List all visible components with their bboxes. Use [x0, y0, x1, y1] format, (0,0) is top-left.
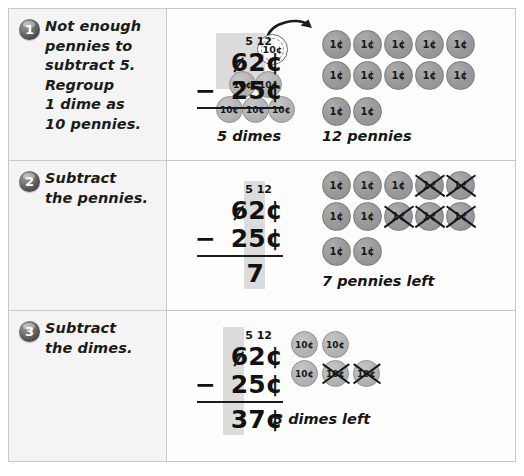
penny-coin-crossed: 1¢ [415, 202, 444, 231]
step-3-instruction-cell: 3 Subtract the dimes. [9, 311, 167, 461]
dime-coin: 10¢ [291, 331, 318, 358]
subtrahend-cent-sign: ¢ [266, 224, 283, 253]
coin-face-label: 10¢ [295, 340, 314, 350]
cross-out-icon [323, 361, 348, 386]
subtrahend-cent-sign: ¢ [266, 370, 283, 399]
penny-coin: 1¢ [353, 30, 382, 59]
coin-face-label: 1¢ [361, 246, 375, 257]
subtrahend-row: −25¢ [197, 225, 283, 253]
cross-out-icon [447, 203, 474, 230]
step-2-work-cell: 5 12 62¢ −25¢ 7 [167, 161, 515, 310]
penny-coin: 1¢ [322, 30, 351, 59]
minus-operator: − [195, 225, 216, 253]
minuend-tens-digit: 6 [231, 197, 248, 225]
penny-coin: 1¢ [322, 171, 351, 200]
coin-face-label: 10¢ [295, 369, 314, 379]
cross-out-icon [416, 203, 443, 230]
coin-face-label: 1¢ [330, 106, 344, 117]
subtrahend-row: −25¢ [197, 371, 283, 399]
coin-face-label: 1¢ [361, 70, 375, 81]
difference-row [197, 112, 283, 140]
minuend-tens-digit: 6 [231, 49, 248, 77]
penny-coin: 1¢ [415, 30, 444, 59]
coin-face-label: 1¢ [330, 180, 344, 191]
step-instruction-text: Subtract the dimes. [45, 319, 162, 358]
minus-operator: − [195, 77, 216, 105]
vertical-subtraction-2: 5 12 62¢ −25¢ 7 [197, 183, 283, 288]
cross-out-icon [385, 203, 412, 230]
regroup-ones-digit: 12 [257, 183, 272, 196]
penny-coin: 1¢ [322, 61, 351, 90]
subtrahend-ones-digit: 5 [248, 76, 265, 105]
coin-face-label: 1¢ [423, 39, 437, 50]
penny-coin: 1¢ [322, 97, 351, 126]
coin-face-label: 1¢ [330, 246, 344, 257]
dime-coin: 10¢ [322, 331, 349, 358]
coin-face-label: 1¢ [392, 70, 406, 81]
difference-row: 7 [197, 260, 283, 288]
table-row: 3 Subtract the dimes. 5 12 62¢ [9, 311, 515, 461]
step-number-badge: 3 [19, 321, 40, 342]
penny-coin: 1¢ [353, 97, 382, 126]
step-number-badge: 1 [19, 19, 40, 40]
coin-face-label: 1¢ [330, 70, 344, 81]
dime-coin-crossed: 10¢ [353, 360, 380, 387]
subtrahend-row: −25¢ [197, 77, 283, 105]
steps-table: 1 Not enough pennies to subtract 5. Regr… [8, 8, 516, 462]
regroup-tens-digit: 5 [245, 183, 253, 196]
regroup-ones-digit: 12 [257, 329, 272, 342]
subtrahend-tens-digit: 2 [231, 76, 248, 105]
dimes-left-label: 3 dimes left [273, 411, 370, 427]
minuend-cent-sign: ¢ [266, 196, 283, 225]
minuend-tens-digit: 6 [231, 343, 248, 371]
coin-face-label: 1¢ [423, 70, 437, 81]
pennies-count-label: 12 pennies [322, 128, 412, 144]
regroup-tens-digit: 5 [245, 329, 253, 342]
coin-face-label: 1¢ [392, 39, 406, 50]
penny-coin: 1¢ [415, 61, 444, 90]
regroup-marks: 5 12 [197, 183, 283, 197]
penny-coin: 1¢ [384, 30, 413, 59]
step-number-badge: 2 [19, 171, 40, 192]
difference-value: 37 [231, 405, 266, 434]
coin-face-label: 1¢ [454, 70, 468, 81]
dime-coin: 10¢ [291, 360, 318, 387]
coin-face-label: 1¢ [361, 180, 375, 191]
coin-face-label: 1¢ [454, 39, 468, 50]
penny-coin: 1¢ [384, 61, 413, 90]
subtraction-bar [197, 401, 283, 403]
subtrahend-ones-digit: 5 [248, 370, 265, 399]
penny-coin-crossed: 1¢ [384, 202, 413, 231]
difference-cent-sign: ¢ [266, 405, 283, 434]
penny-coin: 1¢ [353, 171, 382, 200]
worksheet-page: 1 Not enough pennies to subtract 5. Regr… [0, 0, 524, 476]
subtraction-bar [197, 107, 283, 109]
table-row: 2 Subtract the pennies. 5 12 62¢ [9, 161, 515, 311]
penny-coin: 1¢ [353, 237, 382, 266]
minuend-row: 62¢ [197, 343, 283, 371]
regroup-marks: 5 12 [197, 329, 283, 343]
pennies-left-label: 7 pennies left [322, 273, 435, 289]
penny-coin: 1¢ [446, 61, 475, 90]
subtrahend-tens-digit: 2 [231, 224, 248, 253]
penny-coin: 1¢ [353, 61, 382, 90]
step-instruction-text: Not enough pennies to subtract 5. Regrou… [45, 17, 162, 134]
step-1-instruction-cell: 1 Not enough pennies to subtract 5. Regr… [9, 9, 167, 160]
coin-face-label: 1¢ [361, 39, 375, 50]
subtrahend-cent-sign: ¢ [266, 76, 283, 105]
step-2-instruction-cell: 2 Subtract the pennies. [9, 161, 167, 310]
penny-coin-crossed: 1¢ [446, 171, 475, 200]
table-row: 1 Not enough pennies to subtract 5. Regr… [9, 9, 515, 161]
coin-face-label: 1¢ [330, 211, 344, 222]
penny-coin: 1¢ [322, 237, 351, 266]
cross-out-icon [354, 361, 379, 386]
cross-out-icon [447, 172, 474, 199]
penny-coin: 1¢ [384, 171, 413, 200]
minuend-cent-sign: ¢ [266, 342, 283, 371]
subtraction-bar [197, 255, 283, 257]
penny-coin: 1¢ [322, 202, 351, 231]
dime-coin-crossed: 10¢ [322, 360, 349, 387]
coin-face-label: 10¢ [326, 340, 345, 350]
coin-face-label: 10¢ [263, 44, 283, 55]
difference-value: 7 [247, 259, 264, 288]
